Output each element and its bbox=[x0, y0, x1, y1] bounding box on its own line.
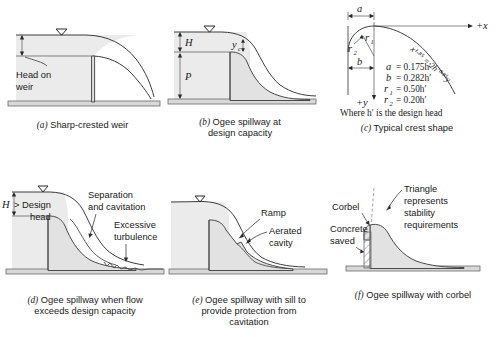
panel-c-typical-crest-shape: r 1 r 2 a b +x +y x¹·⁸⁵ = 2h′⁰·⁸⁵y a = bbox=[318, 0, 496, 145]
weir-plate bbox=[92, 56, 95, 102]
nappe-lower-surface bbox=[93, 56, 151, 99]
eq-r1-value: = 0.50h′ bbox=[396, 84, 427, 94]
concrete-saved-hatch bbox=[364, 232, 371, 268]
y-axis-label: +y bbox=[356, 97, 368, 108]
panel-b-caption: (b) Ogee spillway at design capacity bbox=[160, 117, 320, 139]
panel-c-drawing: r 1 r 2 a b +x +y x¹·⁸⁵ = 2h′⁰·⁸⁵y a = bbox=[318, 0, 496, 120]
aerated-cavity-label-line2: cavity bbox=[269, 238, 293, 248]
panel-f-caption: (f) Ogee spillway with corbel bbox=[330, 290, 496, 301]
separation-leader bbox=[90, 214, 96, 235]
panel-d-caption: (d) Ogee spillway when flow exceeds desi… bbox=[0, 295, 170, 317]
panel-a-sharp-crested-weir: Head on weir (a) Sharp-crested weir bbox=[0, 0, 165, 145]
panel-e-caption: (e) Ogee spillway with sill to provide p… bbox=[165, 295, 333, 329]
eq-r2-value: = 0.20h′ bbox=[396, 95, 427, 105]
separation-arrowhead bbox=[88, 233, 92, 238]
r2-label: r bbox=[348, 43, 353, 54]
panel-c-caption: (c) Typical crest shape bbox=[318, 123, 496, 134]
panel-b-ogee-design-capacity: H P y c (b) Ogee spillway at design capa… bbox=[160, 0, 320, 145]
eq-r1-symbol: r bbox=[384, 83, 389, 94]
eq-r1-subscript: 1 bbox=[390, 89, 393, 96]
panel-a-caption: (a) Sharp-crested weir bbox=[0, 120, 165, 131]
eq-b-value: = 0.282h′ bbox=[396, 73, 431, 83]
corbel-label: Corbel bbox=[332, 202, 359, 212]
P-label: P bbox=[184, 71, 192, 82]
panel-b-caption-label: (b) bbox=[199, 117, 210, 127]
turbulence-label-line2: turbulence bbox=[114, 232, 157, 242]
b-arrow-left bbox=[348, 66, 352, 70]
eq-b-symbol: b bbox=[386, 72, 391, 83]
r1-subscript: 1 bbox=[371, 38, 374, 45]
y-axis-arrow bbox=[372, 95, 376, 100]
design-head-note: Where h′ is the design head bbox=[340, 108, 443, 118]
a-arrow-right bbox=[370, 14, 374, 18]
ground-line bbox=[8, 101, 160, 106]
panel-a-drawing: Head on weir bbox=[0, 0, 165, 118]
r1-label: r bbox=[365, 32, 370, 43]
concrete-saved-label-line1: Concrete bbox=[330, 224, 368, 234]
aerated-cavity-label-line1: Aerated bbox=[269, 226, 302, 236]
panel-e-caption-label: (e) bbox=[192, 295, 202, 305]
crest-parameter-equations: a = 0.175h′ b = 0.282h′ r 1 = 0.50h′ r 2… bbox=[384, 61, 431, 107]
ramp-leader bbox=[241, 219, 260, 236]
stability-arrowhead bbox=[386, 205, 391, 211]
aerated-cavity-leader bbox=[248, 232, 267, 242]
concrete-saved-label-line2: saved bbox=[330, 236, 355, 246]
panel-e-spillway-with-sill: Ramp Aerated cavity (e) Ogee spillway wi… bbox=[165, 170, 333, 337]
panel-d-caption-text: Ogee spillway when flow bbox=[41, 295, 143, 305]
panel-e-caption-text2: provide protection from bbox=[165, 306, 333, 317]
panel-f-caption-text: Ogee spillway with corbel bbox=[366, 290, 471, 300]
panel-d-caption-label: (d) bbox=[27, 295, 38, 305]
x-axis-arrow bbox=[468, 24, 473, 28]
stability-label-line3: stability bbox=[404, 208, 435, 218]
head-on-weir-label-line1: Head on bbox=[16, 70, 51, 80]
eq-a-symbol: a bbox=[386, 61, 391, 72]
panel-a-caption-text: Sharp-crested weir bbox=[50, 120, 128, 130]
separation-label-line2: and cavitation bbox=[88, 202, 145, 212]
eq-r2-subscript: 2 bbox=[390, 100, 394, 107]
panel-d-exceeds-design-capacity: H > Design head Separation and cavitatio… bbox=[0, 170, 170, 337]
yc-subscript: c bbox=[238, 45, 241, 52]
panel-e-caption-text3: cavitation bbox=[165, 317, 333, 328]
panel-d-caption-text2: exceeds design capacity bbox=[0, 306, 170, 317]
panel-b-drawing: H P y c bbox=[160, 0, 320, 118]
turbulence-label-line1: Excessive bbox=[114, 220, 156, 230]
stability-triangle-dashed-line bbox=[371, 188, 374, 226]
panel-b-caption-text2: design capacity bbox=[160, 128, 320, 139]
r2-subscript: 2 bbox=[354, 49, 358, 56]
panel-d-drawing: H > Design head Separation and cavitatio… bbox=[0, 170, 170, 300]
corbel-leader bbox=[362, 213, 368, 223]
yc-label: y bbox=[231, 39, 237, 50]
stability-label-line2: represents bbox=[404, 196, 448, 206]
panel-c-caption-text: Typical crest shape bbox=[374, 123, 454, 133]
design-head-label: head bbox=[30, 212, 51, 222]
water-level-triangle-icon bbox=[204, 26, 215, 32]
ramp-label: Ramp bbox=[261, 208, 286, 218]
water-level-triangle-icon bbox=[38, 186, 48, 192]
panel-f-spillway-with-corbel: Corbel Concrete saved Triangle represent… bbox=[330, 170, 496, 337]
eq-a-value: = 0.175h′ bbox=[396, 62, 431, 72]
a-arrow-left bbox=[348, 14, 352, 18]
a-label: a bbox=[357, 3, 362, 14]
panel-a-caption-label: (a) bbox=[37, 120, 48, 130]
x-axis-label: +x bbox=[476, 20, 488, 31]
panel-e-caption-text: Ogee spillway with sill to bbox=[205, 295, 306, 305]
H-label: H bbox=[184, 37, 194, 48]
spillway-figure: Head on weir (a) Sharp-crested weir bbox=[0, 0, 496, 337]
head-on-weir-label-line2: weir bbox=[15, 82, 33, 92]
water-level-triangle-icon bbox=[56, 29, 67, 35]
panel-b-caption-text: Ogee spillway at bbox=[213, 117, 281, 127]
panel-e-drawing: Ramp Aerated cavity bbox=[165, 170, 333, 300]
b-arrow-right bbox=[370, 66, 374, 70]
panel-f-drawing: Corbel Concrete saved Triangle represent… bbox=[330, 170, 496, 300]
stability-label-line1: Triangle bbox=[404, 184, 437, 194]
stability-label-line4: requirements bbox=[404, 220, 459, 230]
H-label: H bbox=[1, 199, 11, 210]
eq-r2-symbol: r bbox=[384, 94, 389, 105]
ogee-spillway-body bbox=[370, 224, 464, 268]
b-label: b bbox=[357, 56, 362, 67]
panel-c-caption-label: (c) bbox=[361, 123, 371, 133]
separation-label-line1: Separation bbox=[88, 190, 133, 200]
greater-than-design-label: > Design bbox=[14, 200, 51, 210]
panel-f-caption-label: (f) bbox=[355, 290, 364, 300]
